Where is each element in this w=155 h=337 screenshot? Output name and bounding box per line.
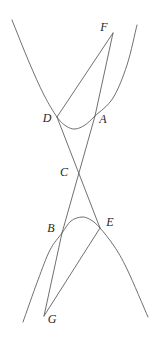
point-label-C: C xyxy=(60,165,69,179)
segment-G-E xyxy=(44,228,100,316)
point-label-E: E xyxy=(105,215,114,229)
point-label-F: F xyxy=(99,20,108,34)
point-label-A: A xyxy=(98,112,107,126)
figure-canvas: FDACBEG xyxy=(0,0,155,337)
point-label-D: D xyxy=(42,111,52,125)
segment-F-D xyxy=(57,33,113,117)
hyperbola-lower-branch xyxy=(23,217,148,322)
geometry-figure: FDACBEG xyxy=(0,0,155,337)
hyperbola-upper-branch xyxy=(12,20,137,129)
segment-F-A xyxy=(95,33,113,116)
point-label-B: B xyxy=(47,221,55,235)
point-label-G: G xyxy=(48,312,57,326)
